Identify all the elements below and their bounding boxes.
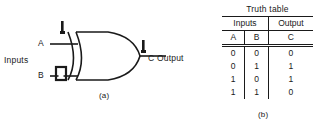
cell-c: 0 [268,86,313,99]
table-row: 1 0 1 [222,73,313,86]
xor-back-arc [68,32,74,80]
input-b-label: B [38,70,44,80]
cell-b: 0 [245,73,268,86]
caption-a: (a) [99,91,109,100]
cell-b: 0 [245,46,268,61]
table-group-header-row: Inputs Output [222,17,313,31]
cell-b: 1 [245,60,268,73]
table-row: 0 1 1 [222,60,313,73]
tick-mark-c-icon [141,40,146,53]
inputs-group-label: Inputs [4,55,28,65]
truth-table-panel: Truth table Inputs Output A B C 0 0 0 0 … [222,4,313,99]
input-a-label: A [38,38,44,48]
group-header-inputs: Inputs [222,17,268,31]
column-header-c: C [268,31,313,46]
table-row: 1 1 0 [222,86,313,99]
column-header-a: A [222,31,245,46]
cell-a: 0 [222,60,245,73]
gate-body-bottom [76,56,140,80]
truth-table-title: Truth table [222,4,313,16]
cell-a: 0 [222,46,245,61]
group-header-output: Output [268,17,313,31]
table-column-header-row: A B C [222,31,313,46]
cell-b: 1 [245,86,268,99]
square-mark-b-icon [56,67,66,80]
gate-body-top [76,32,140,56]
column-header-b: B [245,31,268,46]
xor-gate-schematic [0,0,180,133]
gate-diagram-panel: Inputs A B C Output (a) [0,0,180,133]
output-c-label: C Output [148,53,184,63]
cell-c: 1 [268,73,313,86]
gate-body-back [76,32,82,80]
truth-table: Inputs Output A B C 0 0 0 0 1 1 1 0 [222,16,313,99]
table-row: 0 0 0 [222,46,313,61]
cell-c: 1 [268,60,313,73]
tick-mark-a-icon [60,21,65,34]
cell-c: 0 [268,46,313,61]
caption-b: (b) [258,110,268,119]
cell-a: 1 [222,86,245,99]
cell-a: 1 [222,73,245,86]
